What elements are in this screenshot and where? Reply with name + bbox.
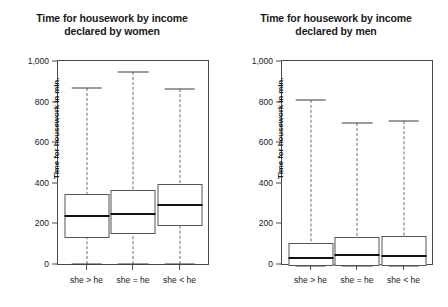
y-tick-800: 800 <box>259 97 282 107</box>
box-group-2 <box>381 61 426 264</box>
x-tick-1: she = he <box>117 264 150 285</box>
box-iqr <box>381 236 426 267</box>
y-tick-200: 200 <box>35 218 58 228</box>
x-tick-1: she = he <box>341 264 374 285</box>
y-axis-label-men: Time for housework in min. <box>276 78 285 179</box>
whisker-cap-high <box>71 88 102 89</box>
x-tick-2: she < he <box>163 264 196 285</box>
y-tick-0: 0 <box>268 259 282 269</box>
whisker-line <box>310 100 311 266</box>
median-line <box>288 257 333 259</box>
box-group-1 <box>335 61 380 264</box>
median-line <box>381 255 426 257</box>
y-axis-label-women: Time for housework in min. <box>52 78 61 179</box>
whisker-cap-high <box>388 121 419 122</box>
whisker-line <box>86 88 87 264</box>
box-iqr <box>288 243 333 266</box>
box-group-2 <box>157 61 202 264</box>
median-line <box>157 204 202 206</box>
whisker-cap-high <box>295 99 326 100</box>
box-group-0 <box>64 61 109 264</box>
y-tick-1000: 1,000 <box>252 56 282 66</box>
y-tick-200: 200 <box>259 218 282 228</box>
whisker-line <box>179 89 180 264</box>
box-group-1 <box>111 61 156 264</box>
boxplot-figure: Time for housework by income declared by… <box>0 0 448 307</box>
box-iqr <box>335 237 380 266</box>
y-tick-600: 600 <box>35 137 58 147</box>
title-line-2: declared by men <box>238 25 434 38</box>
y-tick-0: 0 <box>44 259 58 269</box>
box-group-0 <box>288 61 333 264</box>
median-line <box>335 254 380 256</box>
whisker-line <box>133 72 134 264</box>
panel-title-men: Time for housework by income declared by… <box>224 12 448 38</box>
median-line <box>111 213 156 215</box>
whisker-cap-high <box>164 89 195 90</box>
title-line-1: Time for housework by income <box>14 12 210 25</box>
y-tick-400: 400 <box>259 178 282 188</box>
panel-men: Time for housework by income declared by… <box>224 0 448 307</box>
x-tick-0: she > he <box>294 264 327 285</box>
y-tick-1000: 1,000 <box>28 56 58 66</box>
y-tick-800: 800 <box>35 97 58 107</box>
y-tick-600: 600 <box>259 137 282 147</box>
plot-area-men: Time for housework in min. 0 200 400 600… <box>281 60 433 265</box>
panel-women: Time for housework by income declared by… <box>0 0 224 307</box>
whisker-cap-high <box>118 72 149 73</box>
y-tick-400: 400 <box>35 178 58 188</box>
panel-title-women: Time for housework by income declared by… <box>0 12 224 38</box>
title-line-2: declared by women <box>14 25 210 38</box>
plot-area-women: Time for housework in min. 0 200 400 600… <box>57 60 209 265</box>
title-line-1: Time for housework by income <box>238 12 434 25</box>
median-line <box>64 215 109 217</box>
whisker-cap-high <box>342 122 373 123</box>
x-tick-0: she > he <box>70 264 103 285</box>
x-tick-2: she < he <box>387 264 420 285</box>
